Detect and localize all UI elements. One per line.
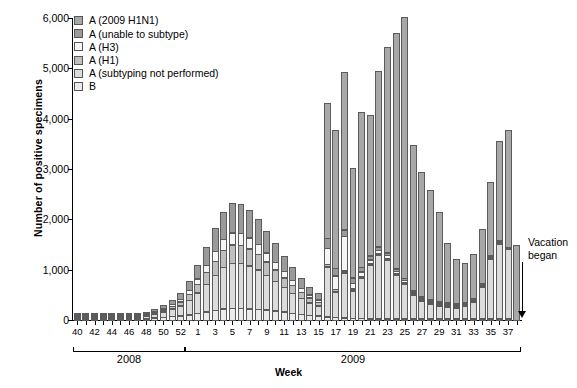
x-tick-label: 46 xyxy=(124,326,135,337)
x-tick-label: 42 xyxy=(89,326,100,337)
bar-week-27 xyxy=(410,143,417,320)
bar-segment xyxy=(487,182,494,256)
bar-week-51 xyxy=(169,297,176,320)
bar-week-17 xyxy=(324,100,331,320)
bar-week-29 xyxy=(427,189,434,320)
bar-week-42 xyxy=(91,318,98,320)
bar-week-43 xyxy=(100,317,107,320)
x-tick-mark xyxy=(207,321,208,325)
bar-week-23 xyxy=(375,68,382,320)
bar-segment xyxy=(418,172,425,297)
bar-week-46 xyxy=(126,315,133,320)
x-tick-mark xyxy=(370,321,371,325)
bar-segment xyxy=(358,112,365,268)
year-label: 2008 xyxy=(117,353,141,365)
x-tick-mark xyxy=(362,321,363,325)
bar-segment xyxy=(427,304,434,319)
x-tick-mark xyxy=(344,321,345,325)
bar-segment xyxy=(410,145,417,291)
bar-segment xyxy=(289,293,296,314)
bar-week-48 xyxy=(143,311,150,320)
bar-segment xyxy=(263,275,270,310)
bar-week-10 xyxy=(263,228,270,320)
legend-swatch-icon xyxy=(74,29,83,38)
bar-segment xyxy=(479,229,486,284)
vacation-annotation: Vacation began xyxy=(528,236,568,261)
year-label: 2009 xyxy=(341,353,365,365)
x-tick-label: 31 xyxy=(451,326,462,337)
bar-segment xyxy=(177,306,184,317)
legend-label: A (unable to subtype) xyxy=(89,29,188,40)
bar-week-30 xyxy=(436,211,443,320)
bar-segment xyxy=(203,284,210,312)
x-tick-label: 23 xyxy=(382,326,393,337)
x-tick-mark xyxy=(319,321,320,325)
bar-segment xyxy=(186,315,193,321)
legend-swatch-icon xyxy=(74,82,83,91)
bar-week-16 xyxy=(315,290,322,320)
bar-segment xyxy=(281,287,288,312)
bar-week-32 xyxy=(453,259,460,320)
x-tick-mark xyxy=(508,321,509,325)
x-tick-mark xyxy=(310,321,311,325)
x-axis-title: Week xyxy=(0,366,577,378)
bar-segment xyxy=(255,270,262,310)
bar-segment xyxy=(393,33,400,270)
x-tick-mark xyxy=(198,321,199,325)
bar-segment xyxy=(246,249,253,267)
x-tick-mark xyxy=(499,321,500,325)
bar-segment xyxy=(272,311,279,321)
bar-segment xyxy=(281,256,288,272)
y-tick-label: 6,000 xyxy=(43,12,69,24)
annotation-line-2: began xyxy=(528,249,568,262)
bar-segment xyxy=(298,314,305,321)
bar-week-35 xyxy=(479,229,486,320)
x-tick-mark xyxy=(146,321,147,325)
bar-segment xyxy=(324,248,331,265)
x-tick-mark xyxy=(250,321,251,325)
bar-segment xyxy=(401,284,408,319)
x-tick-mark xyxy=(77,321,78,325)
x-tick-mark xyxy=(293,321,294,325)
bar-segment xyxy=(212,275,219,310)
bar-week-40 xyxy=(74,319,81,320)
bar-week-19 xyxy=(341,68,348,320)
x-tick-label: 19 xyxy=(348,326,359,337)
legend-swatch-icon xyxy=(74,69,83,78)
x-tick-mark xyxy=(431,321,432,325)
bar-week-24 xyxy=(384,44,391,320)
bar-segment xyxy=(427,190,434,301)
x-tick-label: 13 xyxy=(296,326,307,337)
legend-label: A (2009 H1N1) xyxy=(89,15,158,26)
legend-label: A (H3) xyxy=(89,42,119,53)
x-tick-mark xyxy=(465,321,466,325)
bar-segment xyxy=(263,262,270,276)
x-tick-label: 50 xyxy=(158,326,169,337)
bar-segment xyxy=(358,278,365,319)
x-tick-mark xyxy=(284,321,285,325)
x-tick-label: 11 xyxy=(279,326,289,337)
bar-segment xyxy=(246,210,253,238)
bar-segment xyxy=(220,250,227,268)
bar-segment xyxy=(513,245,520,321)
x-tick-mark xyxy=(155,321,156,325)
bar-segment xyxy=(505,249,512,319)
x-tick-mark xyxy=(181,321,182,325)
bar-segment xyxy=(332,292,339,318)
x-tick-mark xyxy=(336,321,337,325)
x-tick-label: 37 xyxy=(503,326,514,337)
bar-segment xyxy=(324,267,331,317)
x-tick-mark xyxy=(129,321,130,325)
x-tick-mark xyxy=(163,321,164,325)
bar-segment xyxy=(177,316,184,321)
bar-segment xyxy=(453,259,460,304)
bar-week-49 xyxy=(151,307,158,320)
x-tick-mark xyxy=(241,321,242,325)
bar-segment xyxy=(496,141,503,241)
bar-segment xyxy=(289,267,296,280)
bar-segment xyxy=(281,312,288,321)
x-tick-label: 40 xyxy=(72,326,83,337)
bar-segment xyxy=(238,233,245,245)
x-tick-label: 52 xyxy=(175,326,186,337)
bar-segment xyxy=(220,239,227,251)
